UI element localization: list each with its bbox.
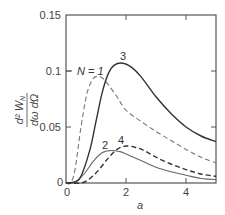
curve-n4	[66, 146, 216, 183]
y-ticks	[66, 15, 216, 183]
chart: 0.15 0.1 0.05 0 0 2 4 a d² WN dω dΩ N = …	[0, 0, 225, 215]
y-tick-label-0: 0	[57, 176, 63, 188]
curve-label-2: 2	[102, 139, 108, 151]
y-tick-label-0.1: 0.1	[46, 65, 61, 77]
y-label-numerator: d² W	[13, 99, 25, 124]
x-tick-label-2: 2	[123, 186, 129, 198]
y-label-denominator: dω dΩ	[28, 94, 40, 126]
y-axis-label: d² WN dω dΩ	[13, 93, 40, 127]
curve-label-3: 3	[120, 50, 126, 62]
svg-text:d² WN: d² WN	[13, 95, 26, 124]
x-tick-label-0: 0	[64, 186, 70, 198]
curve-n3	[66, 63, 216, 183]
y-tick-label-0.15: 0.15	[40, 9, 61, 21]
x-tick-label-4: 4	[183, 186, 189, 198]
plot-frame	[66, 15, 216, 183]
y-label-subscript: N	[19, 95, 26, 101]
x-axis-label: a	[137, 199, 143, 211]
curve-label-4: 4	[118, 134, 124, 146]
y-tick-label-0.05: 0.05	[40, 121, 61, 133]
curve-label-n1: N = 1	[77, 65, 104, 77]
